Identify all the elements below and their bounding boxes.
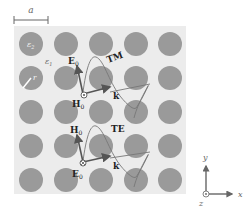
rod — [54, 134, 78, 158]
rod — [54, 32, 78, 56]
coordinate-axes: y x z — [198, 153, 243, 208]
te-title: TE — [111, 124, 125, 134]
rod — [19, 100, 43, 124]
rod — [158, 134, 182, 158]
rod — [89, 168, 113, 192]
rod — [158, 32, 182, 56]
z-axis-label: z — [198, 199, 204, 208]
x-axis-label: x — [238, 190, 243, 199]
y-axis-label: y — [202, 153, 208, 162]
rod — [19, 168, 43, 192]
scale-bar: a — [14, 5, 48, 24]
rod — [124, 32, 148, 56]
rod — [158, 168, 182, 192]
dot-center — [83, 94, 85, 96]
dot-center — [205, 193, 207, 195]
rod — [89, 32, 113, 56]
photonic-crystal-diagram: a ε2 ε1 r — [0, 0, 252, 214]
scale-bar-label: a — [28, 5, 33, 15]
te-k-label: k — [113, 161, 120, 171]
rod — [19, 134, 43, 158]
rod — [158, 66, 182, 90]
rod — [54, 66, 78, 90]
rod — [89, 100, 113, 124]
rod — [158, 100, 182, 124]
tm-k-label: k — [113, 91, 120, 101]
